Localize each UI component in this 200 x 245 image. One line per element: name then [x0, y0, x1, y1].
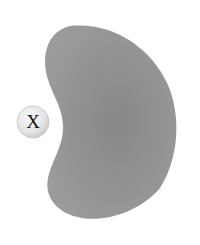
ligand-ball	[17, 106, 49, 138]
diagram-canvas	[0, 0, 200, 245]
binding-site-shape	[45, 26, 176, 219]
